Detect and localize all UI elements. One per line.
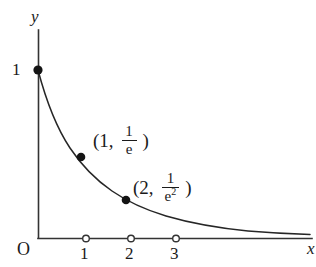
plot-canvas	[0, 0, 316, 267]
annotation-x2-exponent: 2	[171, 186, 176, 197]
y-axis-label: y	[31, 8, 39, 25]
annotation-x2-numerator: 1	[164, 171, 178, 187]
annotation-point-x1: (1, 1 e )	[93, 124, 149, 157]
exponential-decay-figure: y x 1 O 1 2 3 (1, 1 e ) (2, 1 e2 )	[0, 0, 316, 267]
origin-label: O	[17, 240, 30, 258]
annotation-x2-denominator: e2	[162, 188, 180, 204]
x-tick-label-2: 2	[125, 245, 134, 262]
x-tick-marker-2	[128, 235, 135, 242]
annotation-x1-close: )	[143, 131, 149, 150]
y-tick-label-1: 1	[12, 61, 21, 78]
annotation-x1-denominator: e	[123, 141, 136, 157]
annotation-x1-numerator: 1	[122, 124, 136, 140]
annotation-x2-fraction: 1 e2	[162, 171, 180, 204]
annotation-x1-fraction: 1 e	[122, 124, 137, 157]
annotation-x1-lead: (1,	[93, 131, 114, 150]
data-point-x2	[122, 196, 131, 205]
x-axis-label: x	[307, 240, 315, 257]
annotation-x2-close: )	[185, 178, 191, 197]
data-point-x1	[77, 153, 86, 162]
annotation-x2-lead: (2,	[133, 178, 154, 197]
x-tick-label-1: 1	[80, 245, 89, 262]
x-tick-marker-1	[83, 235, 90, 242]
x-tick-label-3: 3	[170, 245, 179, 262]
data-point-y-intercept	[33, 65, 42, 74]
exponential-curve	[38, 70, 310, 235]
x-tick-marker-3	[173, 235, 180, 242]
annotation-point-x2: (2, 1 e2 )	[133, 171, 192, 204]
